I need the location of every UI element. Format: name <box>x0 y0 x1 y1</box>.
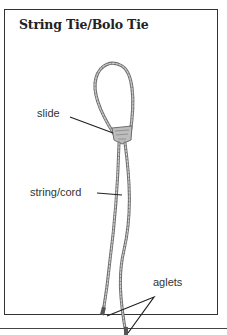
bolo-tie-illustration <box>0 0 227 335</box>
slide-ornament <box>112 126 132 144</box>
string-leader <box>97 193 122 195</box>
aglets-label: aglets <box>153 276 182 288</box>
leader-lines <box>70 117 154 333</box>
string-cord-label: string/cord <box>30 186 81 198</box>
slide-label: slide <box>37 107 60 119</box>
hanging-cords <box>103 143 129 334</box>
cord-loop <box>95 63 133 134</box>
aglets-leader <box>107 297 154 333</box>
